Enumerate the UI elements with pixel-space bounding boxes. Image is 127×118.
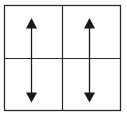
- arrowhead-down-icon: [26, 93, 37, 103]
- left-double-arrow-icon: [26, 18, 37, 103]
- arrowhead-up-icon: [84, 18, 95, 29]
- grid-diagram: [0, 0, 127, 118]
- arrowhead-up-icon: [26, 18, 37, 29]
- diagram-canvas: [0, 0, 127, 118]
- right-double-arrow-icon: [84, 18, 95, 103]
- arrowhead-down-icon: [84, 93, 95, 103]
